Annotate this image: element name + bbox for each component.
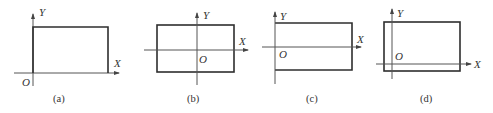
y-axis-label: Y: [397, 7, 405, 19]
panel-caption: (d): [420, 93, 433, 105]
panel-d: Y X O (d): [376, 7, 482, 105]
panel-b: Y X O (b): [144, 9, 248, 105]
origin-label: O: [199, 53, 207, 65]
y-axis-label: Y: [280, 10, 288, 22]
panel-caption: (c): [306, 93, 318, 105]
y-axis-label: Y: [203, 9, 211, 21]
rectangle: [157, 25, 234, 72]
x-axis-label: X: [238, 35, 247, 47]
x-axis-label: X: [356, 33, 365, 45]
y-axis-label: Y: [39, 6, 47, 18]
panel-caption: (b): [187, 93, 200, 105]
coordinate-diagram-figure: Y X O (a) Y X O (b) Y X O (c) Y X O (d): [0, 0, 493, 113]
origin-label: O: [22, 76, 30, 88]
x-axis-label: X: [113, 57, 122, 69]
panel-a: Y X O (a): [14, 6, 122, 105]
rectangle: [33, 27, 108, 73]
origin-label: O: [395, 50, 403, 62]
panel-caption: (a): [53, 93, 65, 105]
origin-label: O: [279, 48, 287, 60]
panel-c: Y X O (c): [262, 10, 365, 105]
x-axis-label: X: [473, 58, 482, 70]
